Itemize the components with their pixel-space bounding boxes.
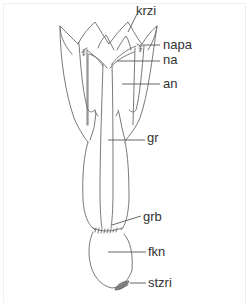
label-grb: grb	[143, 210, 162, 223]
label-gr: gr	[147, 131, 159, 144]
label-fkn: fkn	[148, 245, 165, 258]
stigma-branches	[87, 46, 136, 125]
label-na: na	[163, 53, 177, 66]
label-napa: napa	[163, 38, 192, 51]
style	[100, 64, 113, 228]
tube-outline	[83, 142, 129, 230]
receptacle	[93, 228, 122, 233]
corolla-outline	[60, 22, 157, 142]
stalk-scar	[115, 281, 129, 290]
leader-lines	[108, 14, 160, 283]
label-krzi: krzi	[136, 4, 156, 17]
label-stzri: stzri	[148, 276, 172, 289]
ovary	[89, 232, 132, 288]
label-an: an	[163, 77, 177, 90]
